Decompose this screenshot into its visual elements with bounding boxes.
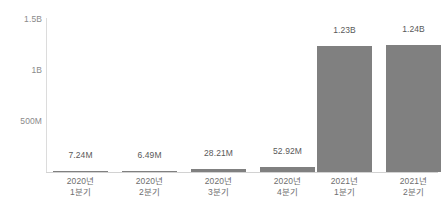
x-category-label-5-year: 2021년 <box>386 176 441 187</box>
bar-slot-3: 52.92M <box>260 18 315 172</box>
bar-2[interactable] <box>191 169 246 172</box>
x-category-label-2: 2020년 3분기 <box>191 176 246 198</box>
bar-0[interactable] <box>53 171 108 172</box>
bar-value-label-0: 7.24M <box>68 150 92 160</box>
bar-slot-2: 28.21M <box>191 18 246 172</box>
x-category-label-2-year: 2020년 <box>191 176 246 187</box>
x-axis-line <box>46 172 438 173</box>
x-category-label-0: 2020년 1분기 <box>53 176 108 198</box>
x-category-label-5-quarter: 2분기 <box>386 187 441 198</box>
bar-value-label-4: 1.23B <box>333 25 356 35</box>
bar-1[interactable] <box>122 171 177 172</box>
bar-value-label-5: 1.24B <box>402 24 425 34</box>
x-category-label-0-year: 2020년 <box>53 176 108 187</box>
x-category-label-1-year: 2020년 <box>122 176 177 187</box>
bar-value-label-1: 6.49M <box>137 150 161 160</box>
x-category-label-3-year: 2020년 <box>260 176 315 187</box>
x-category-label-0-quarter: 1분기 <box>53 187 108 198</box>
y-tick-label-500M: 500M <box>0 116 42 126</box>
bar-4[interactable] <box>317 46 372 172</box>
bar-3[interactable] <box>260 167 315 172</box>
x-category-label-4-quarter: 1분기 <box>317 187 372 198</box>
x-category-label-4: 2021년 1분기 <box>317 176 372 198</box>
x-category-label-3-quarter: 4분기 <box>260 187 315 198</box>
y-axis: 1.5B 1B 500M <box>0 0 42 219</box>
bar-value-label-2: 28.21M <box>204 148 233 158</box>
bar-slot-4: 1.23B <box>317 18 372 172</box>
x-category-label-2-quarter: 3분기 <box>191 187 246 198</box>
y-tick-label-1500M: 1.5B <box>0 14 42 24</box>
bar-chart: 1.5B 1B 500M 7.24M 6.49M 28.21M 52.92M 1… <box>0 0 447 219</box>
bar-5[interactable] <box>386 45 441 172</box>
x-category-label-1-quarter: 2분기 <box>122 187 177 198</box>
x-category-label-5: 2021년 2분기 <box>386 176 441 198</box>
x-category-label-4-year: 2021년 <box>317 176 372 187</box>
bar-slot-0: 7.24M <box>53 18 108 172</box>
x-category-label-3: 2020년 4분기 <box>260 176 315 198</box>
bar-slot-5: 1.24B <box>386 18 441 172</box>
plot-area: 7.24M 6.49M 28.21M 52.92M 1.23B 1.24B <box>47 18 438 172</box>
bar-slot-1: 6.49M <box>122 18 177 172</box>
x-axis: 2020년 1분기 2020년 2분기 2020년 3분기 2020년 4분기 … <box>47 176 438 216</box>
x-category-label-1: 2020년 2분기 <box>122 176 177 198</box>
bar-value-label-3: 52.92M <box>273 146 302 156</box>
y-tick-label-1B: 1B <box>0 65 42 75</box>
